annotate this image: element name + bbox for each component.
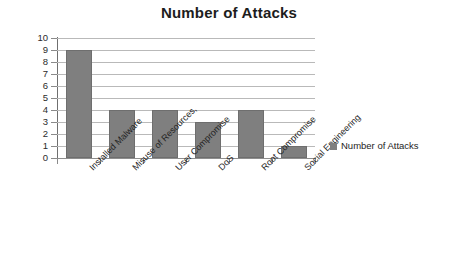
gridline-9 [57,50,315,51]
x-tick-0 [57,159,58,164]
gridline-5 [57,98,315,99]
y-axis-label-1: 1 [26,141,48,151]
chart-title: Number of Attacks [0,4,458,21]
gridline-7 [57,74,315,75]
bar-0[interactable] [66,50,92,158]
y-axis-label-4: 4 [26,105,48,115]
gridline-8 [57,62,315,63]
plot-area [57,38,315,158]
gridline-6 [57,86,315,87]
bar-4[interactable] [238,110,264,158]
legend-swatch-number-of-attacks [330,143,337,150]
y-axis-label-3: 3 [26,117,48,127]
y-axis-label-6: 6 [26,81,48,91]
y-axis-label-8: 8 [26,57,48,67]
legend-label-number-of-attacks: Number of Attacks [341,141,419,151]
chart-legend: Number of Attacks [330,141,419,151]
gridline-10 [57,38,315,39]
y-axis-label-5: 5 [26,93,48,103]
y-axis-label-7: 7 [26,69,48,79]
y-axis-label-10: 10 [26,33,48,43]
y-axis-label-9: 9 [26,45,48,55]
y-axis-label-2: 2 [26,129,48,139]
gridline-2 [57,134,315,135]
y-axis-label-0: 0 [26,153,48,163]
